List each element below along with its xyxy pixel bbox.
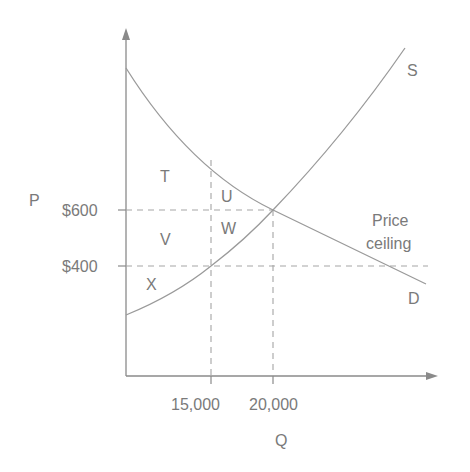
price-ceiling-label-line2: ceiling — [366, 235, 411, 252]
price-400-label: $400 — [62, 258, 98, 275]
x-axis-arrow-icon — [426, 372, 438, 380]
region-t-label: T — [160, 168, 170, 185]
quantity-20000-label: 20,000 — [249, 396, 298, 413]
x-axis-label: Q — [275, 432, 287, 449]
supply-demand-chart: P $600 $400 15,000 20,000 Q S D Price ce… — [0, 0, 470, 472]
price-ceiling-label-line1: Price — [372, 212, 409, 229]
region-x-label: X — [146, 276, 157, 293]
reference-lines — [126, 160, 428, 376]
y-axis-arrow-icon — [122, 28, 130, 40]
supply-label: S — [407, 62, 418, 79]
axes — [118, 28, 438, 384]
y-axis-label: P — [29, 192, 40, 209]
region-u-label: U — [221, 188, 233, 205]
demand-label: D — [408, 290, 420, 307]
region-v-label: V — [160, 231, 171, 248]
price-600-label: $600 — [62, 202, 98, 219]
quantity-15000-label: 15,000 — [171, 396, 220, 413]
region-w-label: W — [221, 220, 237, 237]
